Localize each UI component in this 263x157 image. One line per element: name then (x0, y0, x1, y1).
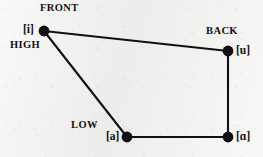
axis-label-back: BACK (206, 26, 238, 37)
vowel-label-i: [i] (23, 24, 34, 36)
edge-i-to-u (44, 31, 228, 51)
vowel-label-a-back: [ɑ] (236, 131, 250, 143)
vowel-label-a-low: [a] (106, 131, 119, 143)
node-a-low[interactable] (122, 132, 133, 143)
node-group (39, 26, 234, 143)
node-i[interactable] (39, 26, 50, 37)
axis-label-low: LOW (71, 120, 98, 131)
vowel-quadrilateral-diagram: FRONT BACK HIGH LOW [i] [u] [a] [ɑ] (0, 0, 263, 157)
axis-label-high: HIGH (10, 40, 40, 51)
quadrilateral-graphic (0, 0, 263, 157)
vowel-label-u: [u] (236, 45, 250, 57)
axis-label-front: FRONT (40, 3, 79, 14)
node-a-back[interactable] (223, 132, 234, 143)
node-u[interactable] (223, 46, 234, 57)
